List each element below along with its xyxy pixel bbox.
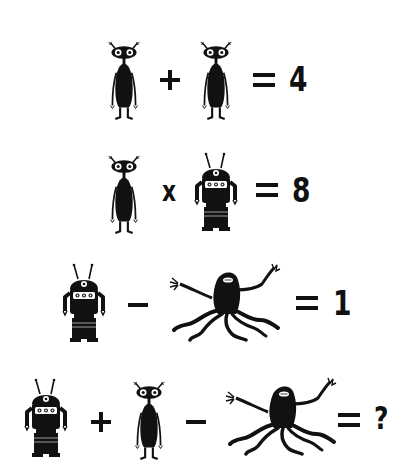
alien-icon — [129, 380, 169, 462]
result-value: 1 — [333, 286, 351, 320]
result-value: 4 — [289, 62, 307, 96]
alien-icon — [104, 154, 144, 236]
times-sign: x — [162, 178, 176, 206]
equals-sign — [296, 296, 318, 310]
robot-icon — [194, 152, 238, 232]
monster-icon — [162, 262, 287, 342]
equals-sign — [256, 183, 278, 197]
result-value: 8 — [292, 173, 310, 207]
minus-sign — [186, 420, 206, 424]
plus-sign — [91, 412, 111, 432]
minus-sign — [128, 303, 148, 307]
unknown-result: ? — [374, 402, 388, 434]
monster-icon — [218, 376, 343, 456]
equals-sign — [253, 73, 275, 87]
equals-sign — [338, 413, 360, 427]
alien-icon — [104, 40, 144, 122]
robot-icon — [62, 263, 106, 343]
robot-icon — [24, 378, 68, 458]
alien-icon — [196, 40, 236, 122]
plus-sign — [160, 70, 180, 90]
